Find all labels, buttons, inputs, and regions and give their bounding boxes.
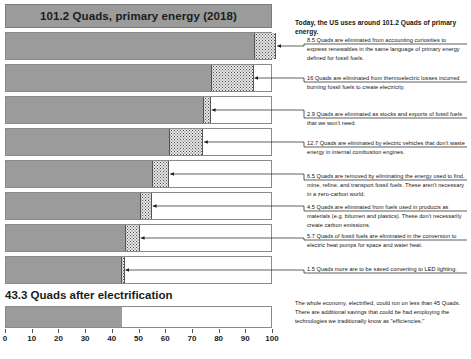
bar-eliminated-segment bbox=[203, 97, 211, 123]
axis-tick-label: 90 bbox=[241, 334, 250, 343]
axis-tick-label: 100 bbox=[265, 334, 278, 343]
bar-remaining-segment bbox=[6, 65, 211, 91]
axis-tick-label: 60 bbox=[161, 334, 170, 343]
footer-title-label: 43.3 Quads after electrification bbox=[5, 289, 172, 301]
axis-tick-label: 0 bbox=[3, 334, 7, 343]
axis-tick-label: 30 bbox=[81, 334, 90, 343]
x-axis: 0102030405060708090100 bbox=[5, 329, 272, 351]
step-note: 4.5 Quads are eliminated from fuels used… bbox=[307, 203, 467, 230]
axis-tick-label: 20 bbox=[54, 334, 63, 343]
lead-note: Today, the US uses around 101.2 Quads of… bbox=[295, 18, 469, 36]
bar-row bbox=[5, 64, 272, 92]
axis-tick bbox=[245, 329, 246, 333]
bar-eliminated-segment bbox=[169, 129, 203, 155]
bar-remaining-segment bbox=[6, 193, 140, 219]
summary-note: The whole economy, electrified, could ru… bbox=[295, 299, 467, 326]
bar-row bbox=[5, 256, 272, 284]
bar-eliminated-segment bbox=[254, 33, 277, 59]
chart-title-banner: 101.2 Quads, primary energy (2018) bbox=[5, 4, 272, 28]
footer-bar-track bbox=[5, 306, 272, 328]
axis-tick bbox=[139, 329, 140, 333]
bar-remaining-segment bbox=[6, 257, 121, 283]
bar-row bbox=[5, 160, 272, 188]
chart-title-label: 101.2 Quads, primary energy (2018) bbox=[40, 10, 237, 22]
bar-row bbox=[5, 32, 272, 60]
chart-column: 101.2 Quads, primary energy (2018) 43.3 … bbox=[0, 0, 290, 359]
step-note: 16 Quads are eliminated from thermoelect… bbox=[307, 74, 467, 92]
bar-eliminated-segment bbox=[121, 257, 125, 283]
axis-tick-label: 50 bbox=[134, 334, 143, 343]
axis-tick bbox=[58, 329, 59, 333]
step-note: 5.7 Quads of fossil fuels are eliminated… bbox=[307, 232, 467, 250]
bar-eliminated-segment bbox=[125, 225, 140, 251]
axis-tick bbox=[192, 329, 193, 333]
bar-remaining-segment bbox=[6, 161, 152, 187]
bar-row bbox=[5, 96, 272, 124]
step-note: 2.9 Quads are eliminated as stocks and e… bbox=[307, 110, 467, 128]
axis-tick-label: 10 bbox=[27, 334, 36, 343]
bar-eliminated-segment bbox=[140, 193, 152, 219]
axis-tick bbox=[165, 329, 166, 333]
bar-row bbox=[5, 128, 272, 156]
bar-eliminated-segment bbox=[152, 161, 169, 187]
bar-eliminated-segment bbox=[211, 65, 254, 91]
axis-tick-label: 40 bbox=[107, 334, 116, 343]
bar-row bbox=[5, 192, 272, 220]
footer-bar-fill bbox=[6, 307, 122, 327]
step-note: 12.7 Quads are eliminated by electric ve… bbox=[307, 139, 467, 157]
bar-remaining-segment bbox=[6, 129, 169, 155]
axis-tick bbox=[272, 329, 273, 333]
step-note: 6.5 Quads are removed by eliminating the… bbox=[307, 172, 467, 199]
step-note: 8.5 Quads are eliminated from accounting… bbox=[307, 36, 467, 63]
axis-tick-label: 80 bbox=[214, 334, 223, 343]
axis-tick bbox=[112, 329, 113, 333]
axis-tick bbox=[219, 329, 220, 333]
bar-remaining-segment bbox=[6, 97, 203, 123]
bar-remaining-segment bbox=[6, 225, 125, 251]
axis-tick bbox=[85, 329, 86, 333]
step-note: 1.5 Quads more are to be saved convertin… bbox=[307, 265, 467, 274]
bar-remaining-segment bbox=[6, 33, 254, 59]
annotation-column: Today, the US uses around 101.2 Quads of… bbox=[290, 0, 471, 359]
axis-tick bbox=[5, 329, 6, 333]
axis-tick-label: 70 bbox=[187, 334, 196, 343]
bar-row bbox=[5, 224, 272, 252]
axis-tick bbox=[32, 329, 33, 333]
